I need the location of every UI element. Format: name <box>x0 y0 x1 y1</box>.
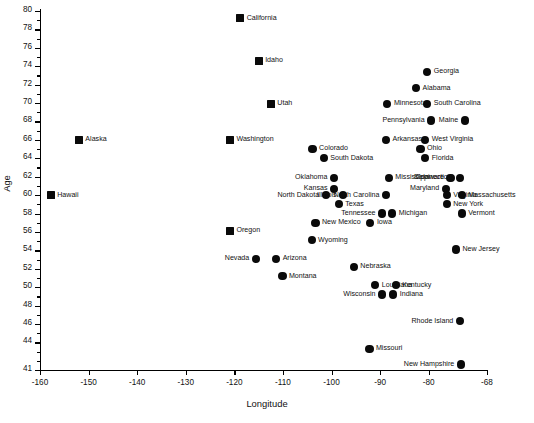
x-tick-mark <box>186 370 187 375</box>
circle-marker-icon <box>458 209 466 217</box>
data-point-label: Minnesota <box>394 99 427 108</box>
y-tick-label: 48 <box>23 300 32 309</box>
x-tick-mark <box>332 370 333 375</box>
circle-marker-icon <box>389 290 397 298</box>
x-tick-mark <box>487 370 488 375</box>
circle-marker-icon <box>350 263 358 271</box>
data-point-label: Wisconsin <box>343 290 375 299</box>
circle-marker-icon <box>378 209 386 217</box>
x-tick-mark <box>234 370 235 375</box>
x-tick-label: -150 <box>80 378 96 387</box>
data-point-label: California <box>247 14 277 23</box>
x-tick-mark <box>89 370 90 375</box>
circle-marker-icon <box>308 145 316 153</box>
circle-marker-icon <box>416 145 424 153</box>
x-tick-mark <box>429 370 430 375</box>
data-point-label: Hawaii <box>57 191 78 200</box>
y-tick-label: 64 <box>23 152 32 161</box>
data-point-label: North Carolina <box>334 191 380 200</box>
y-tick-label: 68 <box>23 115 32 124</box>
y-tick-label: 76 <box>23 42 32 51</box>
circle-marker-icon <box>443 191 451 199</box>
y-tick-label: 66 <box>23 134 32 143</box>
y-tick-label: 74 <box>23 60 32 69</box>
data-point-label: Colorado <box>319 144 348 153</box>
y-tick-label: 50 <box>23 281 32 290</box>
x-tick-label: -130 <box>178 378 194 387</box>
circle-marker-icon <box>382 136 390 144</box>
circle-marker-icon <box>421 136 429 144</box>
x-tick-label: -80 <box>423 378 435 387</box>
circle-marker-icon <box>458 191 466 199</box>
data-point-label: New Hampshire <box>404 360 454 369</box>
data-point-label: New Jersey <box>462 245 499 254</box>
data-point-label: Washington <box>236 135 273 144</box>
data-point-label: Alaska <box>85 135 106 144</box>
data-point-label: Utah <box>277 99 292 108</box>
square-marker-icon <box>236 14 244 22</box>
square-marker-icon <box>226 136 234 144</box>
circle-marker-icon <box>252 255 260 263</box>
circle-marker-icon <box>278 272 286 280</box>
data-point-label: Michigan <box>399 209 427 218</box>
circle-marker-icon <box>388 209 396 217</box>
circle-marker-icon <box>456 317 464 325</box>
data-point-label: Connecticut <box>416 173 453 182</box>
circle-marker-icon <box>461 116 469 124</box>
circle-marker-icon <box>335 200 343 208</box>
circle-marker-icon <box>452 245 460 253</box>
x-tick-mark <box>283 370 284 375</box>
data-point-label: Nebraska <box>360 262 390 271</box>
circle-marker-icon <box>311 219 319 227</box>
y-tick-label: 58 <box>23 208 32 217</box>
plot-area: CaliforniaIdahoGeorgiaAlabamaUtahMinneso… <box>40 11 487 370</box>
data-point-label: South Dakota <box>330 154 373 163</box>
x-tick-label: -68 <box>481 378 493 387</box>
x-tick-label: -120 <box>226 378 242 387</box>
y-tick-label: 72 <box>23 79 32 88</box>
circle-marker-icon <box>423 100 431 108</box>
circle-marker-icon <box>330 174 338 182</box>
circle-marker-icon <box>371 281 379 289</box>
x-axis-title: Longitude <box>0 398 534 409</box>
y-tick-label: 80 <box>23 5 32 14</box>
y-tick-label: 54 <box>23 244 32 253</box>
square-marker-icon <box>255 57 263 65</box>
data-point-label: Nevada <box>225 254 249 263</box>
circle-marker-icon <box>308 236 316 244</box>
x-tick-label: -100 <box>323 378 339 387</box>
y-tick-label: 46 <box>23 318 32 327</box>
data-point-label: Tennessee <box>341 209 375 218</box>
circle-marker-icon <box>427 116 435 124</box>
circle-marker-icon <box>443 200 451 208</box>
circle-marker-icon <box>378 290 386 298</box>
y-tick-label: 78 <box>23 23 32 32</box>
circle-marker-icon <box>385 174 393 182</box>
data-point-label: Arkansas <box>392 135 422 144</box>
y-tick-label: 62 <box>23 171 32 180</box>
data-point-label: Idaho <box>265 56 283 65</box>
square-marker-icon <box>75 136 83 144</box>
square-marker-icon <box>267 100 275 108</box>
square-marker-icon <box>226 227 234 235</box>
data-point-label: Oklahoma <box>295 173 327 182</box>
data-point-label: Georgia <box>434 67 459 76</box>
data-point-label: West Virginia <box>432 135 474 144</box>
data-point-label: Missouri <box>376 344 402 353</box>
data-point-label: Texas <box>345 200 364 209</box>
y-tick-label: 41 <box>23 364 32 373</box>
circle-marker-icon <box>421 154 429 162</box>
data-point-label: Pennsylvania <box>382 116 424 125</box>
data-point-label: Rhode Island <box>411 317 453 326</box>
y-tick-label: 52 <box>23 263 32 272</box>
x-tick-label: -110 <box>275 378 291 387</box>
data-point-label: New York <box>453 200 483 209</box>
x-tick-mark <box>380 370 381 375</box>
y-axis-title: Age <box>1 175 12 192</box>
y-tick-label: 60 <box>23 189 32 198</box>
square-marker-icon <box>47 191 55 199</box>
x-tick-label: -140 <box>129 378 145 387</box>
x-tick-label: -90 <box>374 378 386 387</box>
data-point-label: Vermont <box>468 209 494 218</box>
circle-marker-icon <box>320 154 328 162</box>
